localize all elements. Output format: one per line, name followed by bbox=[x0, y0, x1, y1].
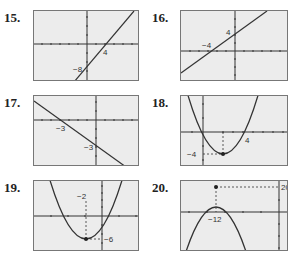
y-intercept-label: −8 bbox=[73, 65, 83, 74]
problem-number: 17. bbox=[4, 95, 20, 111]
x-intercept-label: 4 bbox=[245, 136, 250, 145]
problem-number: 19. bbox=[4, 180, 20, 196]
graph-18: 4 −4 bbox=[180, 95, 288, 166]
y-intercept-label: −3 bbox=[84, 143, 94, 152]
vertex-y-label: 20 bbox=[281, 183, 288, 192]
graph-20: −12 20 bbox=[180, 180, 288, 251]
problem-number: 18. bbox=[152, 95, 168, 111]
problem-number: 15. bbox=[4, 10, 20, 26]
vertex-y-label: −4 bbox=[187, 150, 197, 159]
vertex-x-label: −2 bbox=[77, 192, 87, 201]
x-intercept-label: 4 bbox=[103, 48, 108, 57]
problem-number: 16. bbox=[152, 10, 168, 26]
graph-16: 4 −4 bbox=[180, 10, 288, 81]
problem-number: 20. bbox=[152, 180, 168, 196]
x-intercept-label: −3 bbox=[56, 124, 66, 133]
graph-15: 4 −8 bbox=[33, 10, 139, 81]
graph-17: −3 −3 bbox=[33, 95, 139, 166]
vertex-x-label: −12 bbox=[208, 215, 222, 224]
y-intercept-label: 4 bbox=[226, 28, 231, 37]
graph-19: −2 −6 bbox=[33, 180, 139, 251]
vertex-y-label: −6 bbox=[104, 235, 114, 244]
x-intercept-label: −4 bbox=[202, 41, 212, 50]
